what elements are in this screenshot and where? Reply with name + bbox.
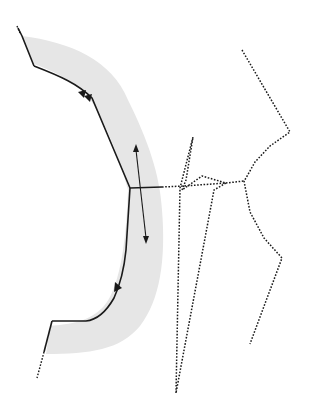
construction-line-1 <box>162 181 244 187</box>
construction-line-3 <box>242 50 290 344</box>
construction-line-2 <box>176 137 226 393</box>
pattern-svg <box>0 0 312 416</box>
seam-line-horizontal <box>130 187 162 188</box>
pattern-diagram <box>0 0 312 416</box>
facing-band <box>22 36 163 354</box>
seam-dotted-end-bottom <box>37 352 44 378</box>
construction-lines <box>162 50 290 393</box>
